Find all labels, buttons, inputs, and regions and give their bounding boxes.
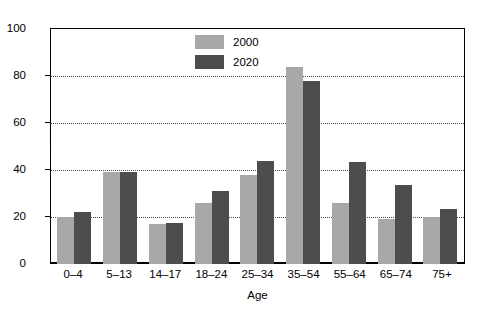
bar-chart-figure: 100 80 60 40 20 0 Millions xyxy=(0,0,481,312)
legend-label-2000: 2000 xyxy=(233,36,259,48)
bar-2020 xyxy=(257,161,274,264)
x-tick-label: 14–17 xyxy=(142,268,188,281)
bar-2000 xyxy=(240,175,257,264)
bar-2020 xyxy=(349,162,366,264)
x-axis-title: Age xyxy=(50,289,465,301)
bar-2020 xyxy=(440,209,457,264)
bar-2020 xyxy=(166,223,183,264)
legend-entry-2000: 2000 xyxy=(195,33,315,51)
y-tick-label: 0 xyxy=(0,258,26,270)
bar-2020 xyxy=(74,212,91,264)
legend-entry-2020: 2020 xyxy=(195,53,315,71)
x-tick-label: 18–24 xyxy=(188,268,234,281)
y-tick-label: 20 xyxy=(0,211,26,223)
y-tick-label: 100 xyxy=(0,23,26,35)
legend-swatch-2000 xyxy=(195,35,224,49)
y-tick-label: 80 xyxy=(0,70,26,82)
bar-group-65-74 xyxy=(372,28,418,264)
bar-group-14-17 xyxy=(143,28,189,264)
x-tick-label: 65–74 xyxy=(373,268,419,281)
legend-label-2020: 2020 xyxy=(233,56,259,68)
x-tick-label: 55–64 xyxy=(327,268,373,281)
bar-2000 xyxy=(57,217,74,264)
bar-2000 xyxy=(286,67,303,264)
bar-group-55-64 xyxy=(326,28,372,264)
bar-group-5-13 xyxy=(97,28,143,264)
bar-2020 xyxy=(120,172,137,264)
bar-2020 xyxy=(212,191,229,264)
x-tick-label: 35–54 xyxy=(281,268,327,281)
bar-2000 xyxy=(378,219,395,264)
bar-group-0-4 xyxy=(52,28,98,264)
x-axis-tick-labels: 0–4 5–13 14–17 18–24 25–34 35–54 55–64 6… xyxy=(50,268,465,281)
chart-legend: 2000 2020 xyxy=(195,29,315,75)
x-tick-label: 75+ xyxy=(419,268,465,281)
bar-2020 xyxy=(303,81,320,264)
bar-2000 xyxy=(103,172,120,264)
bar-group-75plus xyxy=(418,28,464,264)
bar-2020 xyxy=(395,185,412,264)
bar-2000 xyxy=(423,217,440,264)
bar-2000 xyxy=(332,203,349,264)
legend-swatch-2020 xyxy=(195,55,224,69)
x-tick-label: 25–34 xyxy=(234,268,280,281)
y-tick-label: 40 xyxy=(0,164,26,176)
bar-2000 xyxy=(149,224,166,264)
x-tick-label: 5–13 xyxy=(96,268,142,281)
x-tick-label: 0–4 xyxy=(50,268,96,281)
bar-2000 xyxy=(195,203,212,264)
y-tick-label: 60 xyxy=(0,117,26,129)
